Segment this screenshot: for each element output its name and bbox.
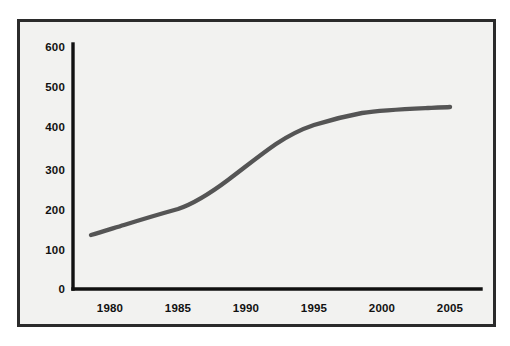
x-tick-label-1995: 1995 xyxy=(284,303,344,315)
plot-area: 600 500 400 300 200 100 0 1980 1985 1990… xyxy=(20,22,493,324)
chart-frame: 600 500 400 300 200 100 0 1980 1985 1990… xyxy=(17,19,496,327)
x-tick-label-1980: 1980 xyxy=(80,303,140,315)
x-tick-label-1985: 1985 xyxy=(148,303,208,315)
x-tick-label-2005: 2005 xyxy=(420,303,480,315)
x-tick-label-1990: 1990 xyxy=(216,303,276,315)
x-axis-labels: 1980 1985 1990 1995 2000 2005 xyxy=(20,22,493,324)
x-tick-label-2000: 2000 xyxy=(352,303,412,315)
